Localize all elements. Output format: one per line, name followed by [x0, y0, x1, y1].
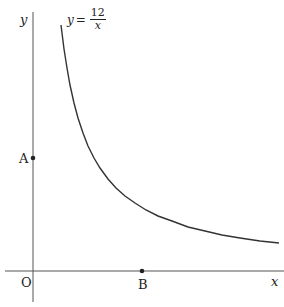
equation-denominator: x	[95, 20, 101, 32]
curve-equation: y = 12 x	[67, 7, 106, 32]
point-a-label: A	[19, 152, 28, 165]
equation-fraction: 12 x	[90, 7, 106, 32]
equation-lhs: y	[67, 13, 74, 27]
point-b-dot	[140, 269, 145, 274]
hyperbola-curve	[61, 25, 279, 243]
point-b-label: B	[138, 278, 148, 291]
x-axis-label: x	[271, 275, 278, 288]
graph-canvas	[0, 0, 284, 307]
origin-label: O	[21, 276, 32, 289]
y-axis-label: y	[20, 13, 27, 26]
point-a-dot	[31, 156, 36, 161]
equation-equals: =	[76, 13, 86, 27]
